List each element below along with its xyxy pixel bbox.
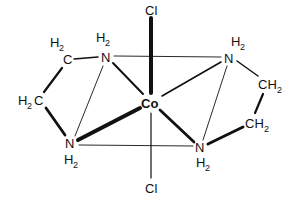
bond-c-c-left xyxy=(44,68,62,92)
h-n-bottomright: H xyxy=(196,155,205,170)
atom-cl-top: Cl xyxy=(145,3,157,18)
edge-left xyxy=(75,66,103,136)
h-sub-n-topleft: 2 xyxy=(105,38,110,48)
ch-sub-rightlower: 2 xyxy=(264,124,269,134)
bond-c-n-bottomright xyxy=(208,127,243,144)
bond-co-n-bottomleft xyxy=(78,108,140,140)
h-n-topright: H xyxy=(231,34,240,49)
chemical-structure-diagram: Cl Cl Co H 2 N H 2 N N H 2 N H 2 H 2 C H… xyxy=(0,0,301,205)
bond-co-n-topleft xyxy=(113,63,143,94)
atom-n-topleft: N xyxy=(101,50,110,65)
atom-n-bottomleft: N xyxy=(65,136,74,151)
atom-ch-rightlower: CH xyxy=(245,116,264,131)
atom-n-bottomright: N xyxy=(195,140,204,155)
atom-co: Co xyxy=(141,96,158,111)
atom-cl-bottom: Cl xyxy=(145,181,157,196)
h-sub-n-topright: 2 xyxy=(240,42,245,52)
atom-c-leftupper: C xyxy=(63,52,72,67)
bond-c-c-right xyxy=(255,94,263,113)
ch-sub-rightupper: 2 xyxy=(277,85,282,95)
h-sub-n-bottomright: 2 xyxy=(205,163,210,173)
h-n-bottomleft: H xyxy=(64,152,73,167)
bond-co-n-topright xyxy=(162,62,221,96)
h-n-topleft: H xyxy=(96,30,105,45)
atom-n-topright: N xyxy=(224,51,233,66)
bond-c-n-bottomleft xyxy=(46,108,65,135)
edge-top xyxy=(114,56,221,57)
edge-right xyxy=(203,66,227,140)
atom-ch-rightupper: CH xyxy=(258,77,277,92)
bond-co-n-bottomright xyxy=(160,110,194,142)
h-c-leftupper: H xyxy=(50,35,59,50)
bond-n-c-topleft xyxy=(74,57,98,59)
h-c-leftlower: H xyxy=(18,93,27,108)
h-sub-c-leftlower: 2 xyxy=(27,101,32,111)
h-sub-n-bottomleft: 2 xyxy=(73,160,78,170)
edge-bottom xyxy=(79,145,193,146)
atom-c-leftlower: C xyxy=(34,93,43,108)
bond-n-c-topright xyxy=(237,61,258,76)
